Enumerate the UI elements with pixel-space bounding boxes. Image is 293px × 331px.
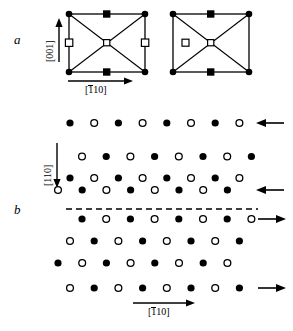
lattice-atom-open [103, 216, 110, 223]
lattice-atom-filled [115, 119, 122, 126]
right-edge-atom [141, 39, 148, 46]
corner-atom [246, 69, 253, 76]
corner-atom [66, 11, 73, 18]
lattice-atom-filled [54, 259, 61, 266]
left-edge-atom [182, 39, 189, 46]
lattice-atom-filled [187, 284, 194, 291]
lattice-atom-filled [163, 174, 170, 181]
lattice-atom-open [103, 187, 110, 194]
panel-b-vertical-axis-label: [110] [43, 165, 53, 186]
lattice-atom-filled [200, 259, 207, 266]
lattice-atom-open [67, 285, 74, 292]
lattice-atom-open [248, 216, 255, 223]
lattice-atom-filled [66, 119, 73, 126]
lattice-atom-open [200, 216, 207, 223]
lattice-atom-open [67, 238, 74, 245]
corner-atom [142, 69, 149, 76]
lattice-atom-filled [66, 174, 73, 181]
lattice-atom-open [91, 120, 98, 127]
lattice-atom-filled [236, 284, 243, 291]
lattice-atom-open [212, 238, 219, 245]
lattice-atom-filled [199, 153, 206, 160]
lattice-atom-open [151, 187, 158, 194]
lattice-atom-open [139, 175, 146, 182]
top-edge-atom [103, 10, 110, 17]
lattice-atom-open [139, 120, 146, 127]
overbar-digit-b: 1 [151, 307, 156, 317]
panel-label-a: a [14, 33, 21, 46]
lattice-atom-filled [91, 284, 98, 291]
lattice-atom-filled [212, 174, 219, 181]
corner-atom [170, 69, 177, 76]
lattice-atom-filled [236, 237, 243, 244]
lattice-atom-filled [127, 186, 134, 193]
lattice-atom-open [91, 175, 98, 182]
corner-atom [246, 11, 253, 18]
corner-atom [66, 69, 73, 76]
lattice-atom-filled [139, 284, 146, 291]
lattice-atom-filled [151, 259, 158, 266]
lattice-atom-open [115, 238, 122, 245]
lattice-atom-open [79, 153, 86, 160]
centre-atom [208, 40, 214, 46]
lattice-atom-filled [139, 237, 146, 244]
lattice-atom-filled [175, 186, 182, 193]
overbar-digit-a: 1 [88, 85, 93, 95]
bottom-edge-atom [103, 68, 110, 75]
lattice-atom-open [188, 120, 195, 127]
panel-b-horizontal-axis-label: [110] [148, 307, 170, 317]
lattice-atom-filled [91, 237, 98, 244]
lattice-atom-filled [103, 153, 110, 160]
lattice-atom-open [55, 187, 62, 194]
axis-digits-a: 10 [93, 84, 103, 95]
lattice-atom-open [127, 260, 134, 267]
top-edge-atom [207, 10, 214, 17]
panel-label-b: b [14, 203, 21, 216]
lattice-atom-open [79, 260, 86, 267]
centre-atom [104, 40, 110, 46]
lattice-atom-open [163, 285, 170, 292]
lattice-atom-filled [151, 153, 158, 160]
lattice-atom-open [224, 260, 231, 267]
lattice-atom-filled [127, 215, 134, 222]
lattice-atom-open [236, 175, 243, 182]
left-edge-atom [65, 39, 72, 46]
lattice-atom-filled [79, 186, 86, 193]
lattice-atom-open [188, 175, 195, 182]
lattice-atom-open [200, 187, 207, 194]
lattice-atom-open [115, 285, 122, 292]
lattice-atom-open [212, 285, 219, 292]
lattice-atom-filled [224, 215, 231, 222]
lattice-atom-filled [187, 237, 194, 244]
lattice-atom-filled [224, 186, 231, 193]
lattice-atom-open [224, 153, 231, 160]
lattice-atom-open [236, 120, 243, 127]
lattice-atom-open [176, 260, 183, 267]
panel-a-vertical-axis-label: [001] [45, 40, 55, 62]
panel-a-horizontal-axis-label: [110] [85, 85, 107, 95]
lattice-atom-filled [212, 119, 219, 126]
lattice-atom-filled [78, 215, 85, 222]
lattice-atom-filled [175, 215, 182, 222]
lattice-atom-filled [115, 174, 122, 181]
lattice-atom-open [163, 238, 170, 245]
corner-atom [142, 11, 149, 18]
lattice-atom-open [151, 216, 158, 223]
bottom-edge-atom [207, 68, 214, 75]
lattice-atom-open [175, 153, 182, 160]
corner-atom [170, 11, 177, 18]
lattice-atom-filled [103, 259, 110, 266]
lattice-atom-filled [163, 119, 170, 126]
lattice-atom-open [127, 153, 134, 160]
lattice-atom-filled [248, 153, 255, 160]
axis-digits-b: 10 [156, 306, 166, 317]
